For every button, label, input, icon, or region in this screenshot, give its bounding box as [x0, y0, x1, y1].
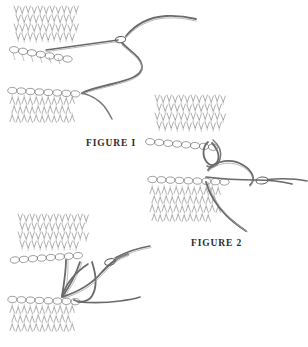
figure1-upper-live-stitch-edge	[9, 46, 73, 62]
figure3-lower-knit-swatch	[8, 296, 80, 331]
figure3-graft-yarn-strands	[62, 254, 140, 303]
figure1-tapestry-needle	[46, 36, 126, 52]
figure2-large-yarn-loop	[206, 161, 292, 187]
figure-2-group	[145, 95, 307, 232]
figure1-upper-knit-swatch	[9, 6, 79, 64]
figure3-upper-knit-swatch	[10, 214, 88, 263]
figure1-working-yarn	[82, 16, 196, 119]
figure-1-label: FIGURE I	[86, 138, 136, 148]
figure3-lower-live-stitch-edge	[8, 296, 80, 305]
figure-1-group	[8, 6, 196, 122]
illustration-page: FIGURE I FIGURE 2	[0, 0, 308, 347]
figure3-upper-live-stitch-edge	[10, 252, 83, 263]
knitting-illustration-artboard	[0, 0, 308, 347]
figure1-lower-knit-swatch	[8, 87, 81, 122]
figure2-lower-knit-swatch	[148, 176, 229, 221]
figure2-yarn-tail	[206, 182, 248, 232]
figure2-upper-live-stitch-edge	[145, 138, 218, 151]
figure1-lower-live-stitch-edge	[8, 87, 81, 97]
figure2-upper-knit-swatch	[145, 95, 225, 151]
figure-2-label: FIGURE 2	[191, 238, 242, 248]
figure-3-group	[8, 214, 151, 331]
